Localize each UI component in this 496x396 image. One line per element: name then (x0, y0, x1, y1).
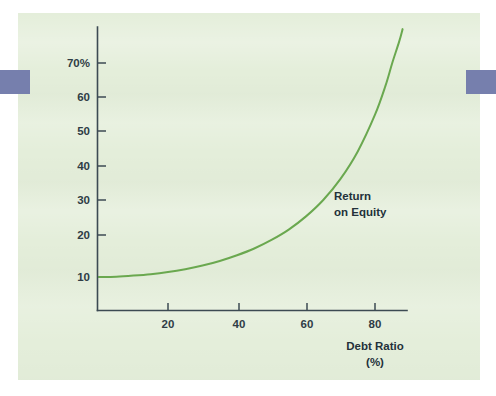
figure-root: 70% 60 50 40 30 20 10 20 40 60 80 Return (0, 0, 496, 396)
x-tick-label: 60 (301, 318, 314, 330)
y-axis-ticks (98, 63, 107, 277)
series-annotation: Return on Equity (334, 190, 387, 218)
x-axis-tick-labels: 20 40 60 80 (162, 318, 382, 330)
y-tick-label: 60 (77, 91, 90, 103)
return-on-equity-curve (99, 29, 403, 277)
x-axis-title-unit: (%) (366, 356, 384, 368)
y-tick-label: 40 (77, 160, 90, 172)
x-tick-label: 40 (233, 318, 246, 330)
x-tick-label: 80 (369, 318, 382, 330)
y-axis-tick-labels: 70% 60 50 40 30 20 10 (67, 57, 90, 283)
chart-plot: 70% 60 50 40 30 20 10 20 40 60 80 Return (0, 0, 496, 396)
y-tick-label: 70% (67, 57, 90, 69)
y-tick-label: 10 (77, 271, 90, 283)
x-axis-title-text: Debt Ratio (346, 340, 404, 352)
x-axis-ticks (168, 303, 375, 311)
y-tick-label: 30 (77, 194, 90, 206)
series-annotation-line-2: on Equity (334, 206, 387, 218)
series-annotation-line-1: Return (334, 190, 371, 202)
y-tick-label: 20 (77, 229, 90, 241)
x-axis-title: Debt Ratio (%) (346, 340, 404, 368)
x-tick-label: 20 (162, 318, 175, 330)
y-tick-label: 50 (77, 125, 90, 137)
